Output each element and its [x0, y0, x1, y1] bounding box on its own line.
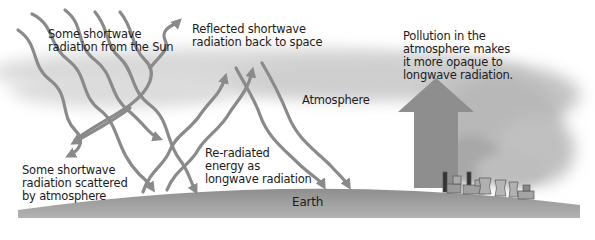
- label-atmosphere: Atmosphere: [302, 94, 370, 107]
- label-reradiated: Re-radiated energy as longwave radiation: [205, 147, 312, 186]
- label-scattered: Some shortwave radiation scattered by at…: [22, 164, 128, 203]
- label-reflected: Reflected shortwave radiation back to sp…: [192, 23, 322, 49]
- label-pollution: Pollution in the atmosphere makes it mor…: [403, 30, 513, 82]
- label-earth: Earth: [292, 196, 323, 209]
- label-sun-radiation: Some shortwave radiation from the Sun: [48, 28, 173, 54]
